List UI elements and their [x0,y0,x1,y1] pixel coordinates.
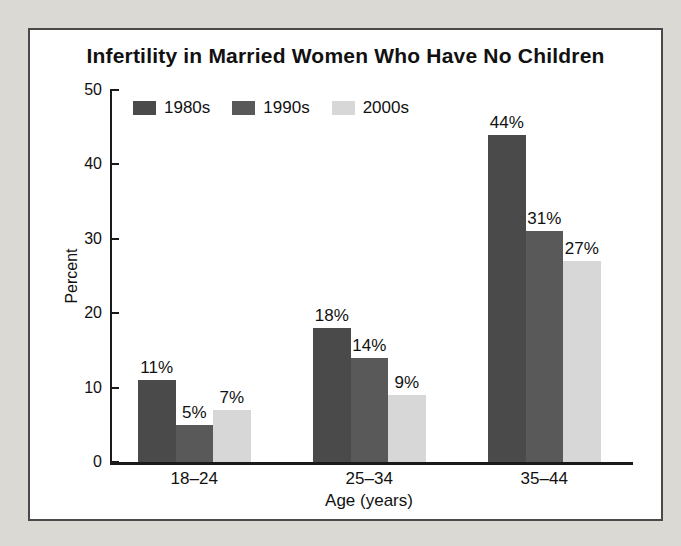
legend: 1980s1990s2000s [133,99,409,117]
x-category-label: 25–34 [319,469,419,489]
y-tick [110,312,119,314]
bar-value-label: 11% [122,358,192,378]
bar-value-label: 31% [509,209,579,229]
x-category-label: 18–24 [144,469,244,489]
plot-area: Percent Age (years) 1980s1990s2000s 0102… [30,30,661,519]
legend-label: 2000s [363,99,409,117]
y-tick-label: 0 [58,453,102,471]
y-tick [110,163,119,165]
y-tick-label: 10 [58,379,102,397]
bar-1980s-35–44 [488,135,526,462]
legend-item-1990s: 1990s [232,99,309,117]
legend-item-1980s: 1980s [133,99,210,117]
y-tick [110,89,119,91]
x-axis-line [110,462,633,465]
bar-value-label: 14% [334,336,404,356]
legend-item-2000s: 2000s [332,99,409,117]
bar-1990s-35–44 [526,231,564,462]
legend-swatch-2000s [332,101,355,115]
bar-1990s-18–24 [176,425,214,462]
bar-value-label: 7% [197,388,267,408]
y-tick [110,461,119,463]
bar-value-label: 44% [472,113,542,133]
y-tick-label: 40 [58,155,102,173]
bar-2000s-35–44 [563,261,601,462]
bar-2000s-25–34 [388,395,426,462]
y-tick-label: 50 [58,81,102,99]
legend-label: 1990s [263,99,309,117]
legend-swatch-1990s [232,101,255,115]
y-tick-label: 30 [58,230,102,248]
bar-2000s-18–24 [213,410,251,462]
page-background: Infertility in Married Women Who Have No… [0,0,681,546]
y-tick [110,387,119,389]
legend-swatch-1980s [133,101,156,115]
y-tick [110,238,119,240]
y-tick-label: 20 [58,304,102,322]
y-axis-line [110,90,112,465]
figure-panel: Infertility in Married Women Who Have No… [28,28,663,521]
y-axis-title: Percent [63,248,81,303]
bar-value-label: 27% [547,239,617,259]
legend-label: 1980s [164,99,210,117]
bar-value-label: 9% [372,373,442,393]
x-axis-title: Age (years) [269,491,469,511]
bar-value-label: 18% [297,306,367,326]
x-category-label: 35–44 [494,469,594,489]
